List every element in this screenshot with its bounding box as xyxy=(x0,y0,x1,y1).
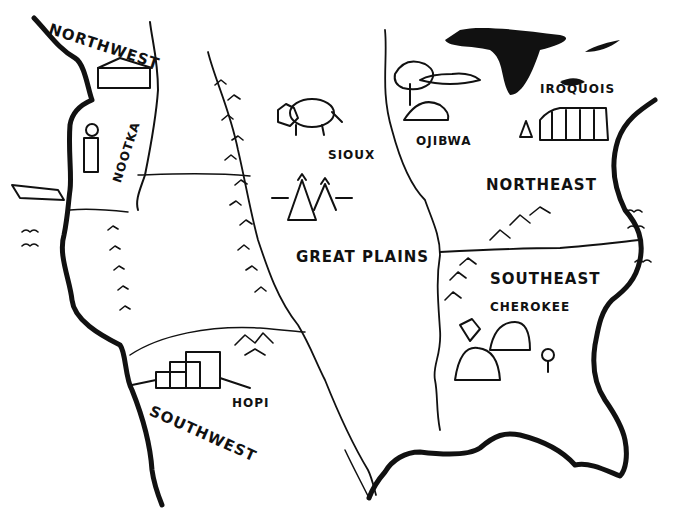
pueblo-icon xyxy=(132,352,250,388)
buffalo-icon xyxy=(278,99,342,135)
cherokee-houses-icon xyxy=(455,319,554,380)
tribe-label-sioux: SIOUX xyxy=(328,148,375,162)
tribe-label-iroquois: IROQUOIS xyxy=(540,82,615,96)
region-label-great-plains: GREAT PLAINS xyxy=(296,248,429,266)
tribe-label-cherokee: CHEROKEE xyxy=(490,300,570,314)
border-northeast-southeast xyxy=(440,240,640,252)
border-southwest xyxy=(130,327,305,355)
east-coastline xyxy=(369,100,655,498)
tribe-label-hopi: HOPI xyxy=(232,396,270,410)
border-nw-plains xyxy=(138,174,250,176)
longhouse-icon xyxy=(520,108,608,140)
west-coastline xyxy=(34,18,162,505)
region-label-southeast: SOUTHEAST xyxy=(490,270,600,288)
totem-icon xyxy=(84,124,98,172)
border-nw-sw xyxy=(70,209,128,212)
teepee-icon xyxy=(272,174,352,220)
tribe-label-ojibwa: OJIBWA xyxy=(416,134,472,148)
region-label-northeast: NORTHEAST xyxy=(486,176,597,194)
wigwam-icon xyxy=(395,62,449,120)
